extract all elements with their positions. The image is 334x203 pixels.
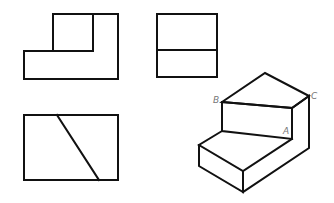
drawing-canvas: B C A [0,0,334,203]
front-view [24,14,118,79]
label-b: B [213,95,219,105]
label-c: C [311,91,318,101]
side-view [157,14,217,77]
top-view [24,115,118,180]
label-a: A [282,126,289,136]
isometric-view [199,73,309,192]
